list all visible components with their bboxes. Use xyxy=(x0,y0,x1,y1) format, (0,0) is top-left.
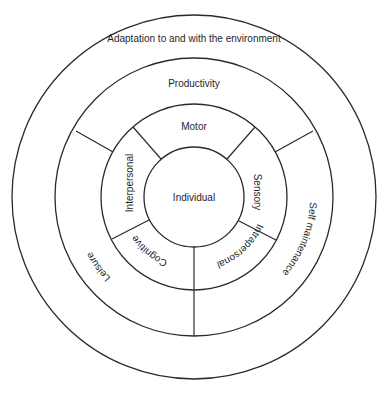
cognitive-label: Cognitive xyxy=(129,233,169,269)
divider-productivity-leisure xyxy=(275,131,313,152)
environment-label: Adaptation to and with the environment xyxy=(107,33,281,44)
divider-motor-interpersonal xyxy=(133,127,161,159)
individual-label: Individual xyxy=(173,192,215,203)
divider-productivity-self-maintenance xyxy=(76,131,113,152)
cognitive-path: Cognitive xyxy=(129,233,169,269)
occupational-performance-diagram: Adaptation to and with the environment P… xyxy=(0,0,385,395)
sensory-label: Sensory xyxy=(252,174,263,211)
leisure-path: Leisure xyxy=(83,250,112,284)
productivity-label: Productivity xyxy=(168,78,220,89)
interpersonal-label: Interpersonal xyxy=(124,154,135,212)
divider-motor-sensory xyxy=(227,127,255,159)
cropped-figure-caption xyxy=(0,388,385,395)
divider-interpersonal-intrapersonal xyxy=(112,220,149,239)
motor-label: Motor xyxy=(181,121,207,132)
leisure-label: Leisure xyxy=(83,250,112,284)
